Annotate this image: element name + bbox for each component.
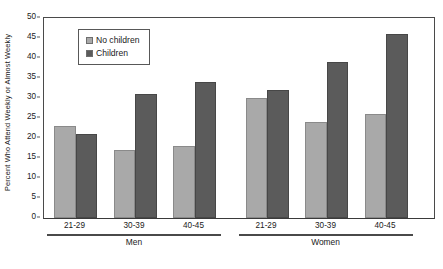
legend-item-no-children: No children [86,34,139,47]
y-axis-tickmark-50 [37,17,40,18]
group-label-women: Women [311,237,340,247]
y-axis-tick-15: 15 [27,153,36,161]
y-axis-tickmark-35 [37,77,40,78]
legend-swatch-icon-children [86,50,93,57]
y-axis-tick-0: 0 [31,213,36,221]
bar-children-1 [135,94,157,218]
bar-chart-figure: Percent Who Attend Weekly or Almost Week… [0,0,443,269]
group-rule-women [239,234,413,236]
y-axis-tick-25: 25 [27,113,36,121]
legend-label-children: Children [96,49,128,58]
x-axis-label-5: 40-45 [375,221,396,230]
y-axis-tick-50: 50 [27,13,36,21]
bar-no-children-5 [365,114,387,218]
bar-children-3 [267,90,289,218]
y-axis-tick-45: 45 [27,33,36,41]
y-axis-tickmark-45 [37,37,40,38]
legend-swatch-icon-no-children [86,37,93,44]
group-rule-men [47,234,221,236]
group-label-men: Men [126,237,142,247]
y-axis-title-text: Percent Who Attend Weekly or Almost Week… [4,33,13,190]
y-axis-tick-labels: 05101520253035404550 [16,0,40,224]
plot-area: No children Children [43,17,435,219]
legend-item-children: Children [86,47,139,60]
x-axis-group-labels: MenWomen [43,234,435,262]
y-axis-tickmark-25 [37,117,40,118]
x-axis-label-1: 30-39 [124,221,145,230]
bar-no-children-1 [114,150,136,218]
y-axis-tickmark-15 [37,157,40,158]
bar-children-5 [386,34,408,218]
chart-legend: No children Children [78,29,150,65]
bar-no-children-4 [305,122,327,218]
y-axis-tick-40: 40 [27,53,36,61]
bar-no-children-2 [173,146,195,218]
y-axis-tickmark-0 [37,217,40,218]
x-axis-category-labels: 21-2930-3940-4521-2930-3940-45 [43,221,435,234]
bar-children-0 [76,134,98,218]
bar-children-2 [195,82,217,218]
x-axis-label-2: 40-45 [183,221,204,230]
x-axis-label-3: 21-29 [256,221,277,230]
y-axis-tick-10: 10 [27,173,36,181]
bar-no-children-3 [246,98,268,218]
y-axis-tickmark-5 [37,197,40,198]
x-axis-label-4: 30-39 [315,221,336,230]
y-axis-tick-30: 30 [27,93,36,101]
y-axis-tickmark-20 [37,137,40,138]
y-axis-tickmark-30 [37,97,40,98]
y-axis-tickmark-10 [37,177,40,178]
bar-no-children-0 [54,126,76,218]
y-axis-tick-35: 35 [27,73,36,81]
x-axis-label-0: 21-29 [64,221,85,230]
legend-label-no-children: No children [96,36,139,45]
y-axis-title: Percent Who Attend Weekly or Almost Week… [0,0,16,224]
y-axis-tick-20: 20 [27,133,36,141]
bar-children-4 [327,62,349,218]
y-axis-tick-5: 5 [31,193,36,201]
y-axis-tickmark-40 [37,57,40,58]
